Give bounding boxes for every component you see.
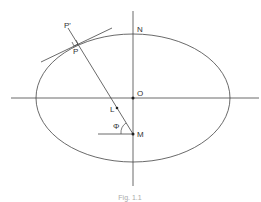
point-l — [116, 107, 119, 110]
ellipse-diagram: P' P N O L M Φ Fig. 1.1 — [0, 0, 261, 202]
label-l: L — [110, 105, 115, 114]
point-o — [132, 97, 135, 100]
label-phi: Φ — [113, 122, 119, 131]
label-n: N — [137, 25, 143, 34]
angle-arc — [121, 123, 126, 134]
figure-caption: Fig. 1.1 — [118, 194, 141, 202]
label-p-prime: P' — [64, 21, 71, 30]
label-p: P — [73, 47, 78, 56]
label-o: O — [137, 89, 143, 98]
label-m: M — [137, 130, 144, 139]
point-m — [132, 133, 135, 136]
